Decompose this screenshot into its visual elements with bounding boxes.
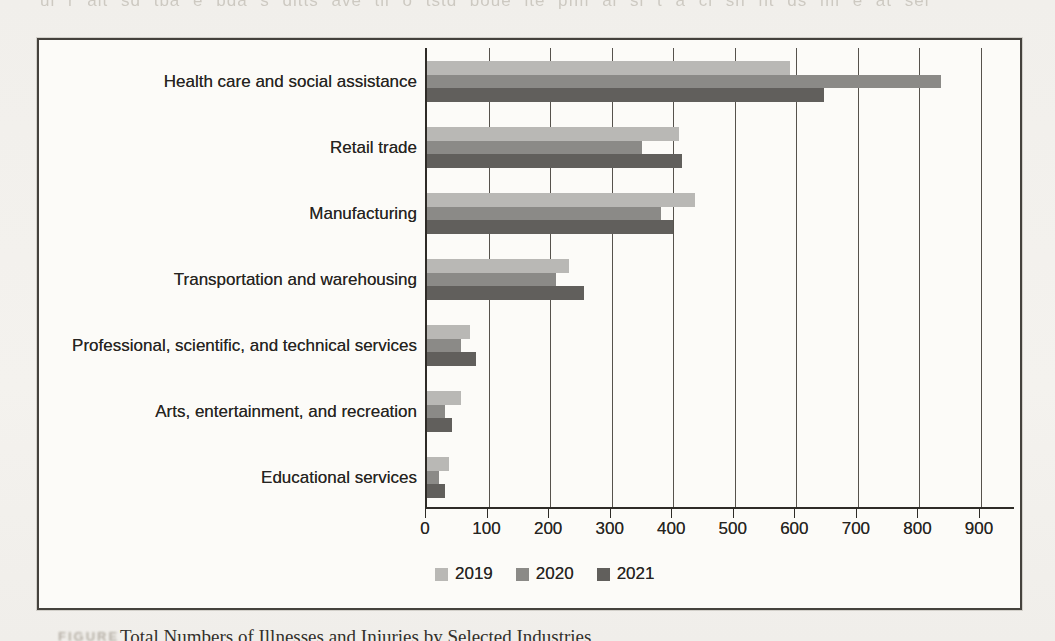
bar-2021 (427, 286, 584, 300)
figure-caption-text: Total Numbers of Illnesses and Injuries … (120, 626, 591, 641)
x-tick-600 (794, 509, 795, 518)
category-label: Transportation and warehousing (42, 270, 417, 290)
category-label: Retail trade (42, 138, 417, 158)
bar-2021 (427, 484, 445, 498)
bar-2019 (427, 127, 679, 141)
bar-2019 (427, 325, 470, 339)
x-tick-label: 300 (580, 519, 640, 539)
bar-2021 (427, 154, 682, 168)
category-label: Arts, entertainment, and recreation (42, 402, 417, 422)
bar-2021 (427, 352, 476, 366)
figure-label: FIGURE (58, 629, 119, 641)
x-tick-label: 900 (949, 519, 1009, 539)
bar-2020 (427, 75, 941, 88)
bar-2020 (427, 471, 439, 484)
gridline-800 (919, 48, 920, 507)
x-tick-100 (487, 509, 488, 518)
category-label: Educational services (42, 468, 417, 488)
x-tick-label: 700 (826, 519, 886, 539)
legend-label: 2020 (536, 564, 574, 584)
x-tick-200 (548, 509, 549, 518)
bar-2020 (427, 207, 661, 220)
x-tick-500 (733, 509, 734, 518)
gridline-900 (981, 48, 982, 507)
x-tick-label: 400 (641, 519, 701, 539)
x-tick-700 (856, 509, 857, 518)
bar-2020 (427, 273, 556, 286)
x-tick-label: 0 (395, 519, 455, 539)
legend-swatch-2020 (516, 568, 529, 581)
x-tick-0 (425, 509, 426, 518)
legend-swatch-2021 (597, 568, 610, 581)
category-label: Manufacturing (42, 204, 417, 224)
bar-2019 (427, 457, 449, 471)
bar-2021 (427, 88, 824, 102)
x-tick-label: 100 (457, 519, 517, 539)
legend-item-2019: 2019 (435, 564, 493, 584)
bar-2020 (427, 339, 461, 352)
category-label: Professional, scientific, and technical … (42, 336, 417, 356)
x-tick-400 (671, 509, 672, 518)
bar-2021 (427, 220, 673, 234)
legend: 201920202021 (435, 564, 654, 584)
bar-2020 (427, 405, 445, 418)
category-label: Health care and social assistance (42, 72, 417, 92)
x-tick-label: 600 (764, 519, 824, 539)
legend-item-2020: 2020 (516, 564, 574, 584)
legend-label: 2021 (617, 564, 655, 584)
x-tick-800 (917, 509, 918, 518)
x-tick-900 (979, 509, 980, 518)
bar-2019 (427, 259, 569, 273)
x-tick-label: 200 (518, 519, 578, 539)
bar-2020 (427, 141, 642, 154)
bar-2021 (427, 418, 452, 432)
gridline-600 (796, 48, 797, 507)
x-tick-label: 800 (887, 519, 947, 539)
bar-2019 (427, 193, 695, 207)
gridline-400 (673, 48, 674, 507)
gridline-500 (735, 48, 736, 507)
legend-label: 2019 (455, 564, 493, 584)
gridline-700 (858, 48, 859, 507)
bar-2019 (427, 391, 461, 405)
x-tick-300 (610, 509, 611, 518)
x-tick-label: 500 (703, 519, 763, 539)
legend-item-2021: 2021 (597, 564, 655, 584)
bar-2019 (427, 61, 790, 75)
ghost-text-top: ul r alt sd tba e bda s dltts ave tll o … (40, 0, 1018, 11)
legend-swatch-2019 (435, 568, 448, 581)
plot-area (425, 48, 1014, 509)
gridline-300 (612, 48, 613, 507)
